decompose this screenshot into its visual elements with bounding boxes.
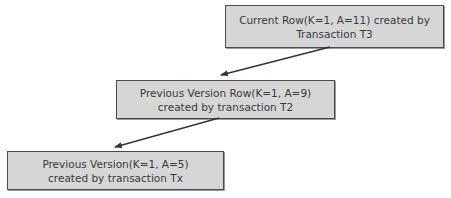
previous-version-row-box: Previous Version Row(K=1, A=9) created b… <box>116 80 335 119</box>
current-row-box: Current Row(K=1, A=11) created by Transa… <box>225 5 444 48</box>
previous-version-row-label-line1: Previous Version Row(K=1, A=9) <box>140 86 311 100</box>
previous-version-row-label-line2: created by transaction T2 <box>158 100 293 114</box>
current-row-label-line1: Current Row(K=1, A=11) created by <box>239 13 430 27</box>
current-row-label-line2: Transaction T3 <box>296 27 373 41</box>
arrow-previous-to-oldest-icon <box>115 118 219 147</box>
oldest-version-box: Previous Version(K=1, A=5) created by tr… <box>7 151 224 190</box>
arrow-current-to-previous-icon <box>221 47 330 75</box>
oldest-version-label-line2: created by transaction Tx <box>48 171 183 185</box>
oldest-version-label-line1: Previous Version(K=1, A=5) <box>42 157 188 171</box>
